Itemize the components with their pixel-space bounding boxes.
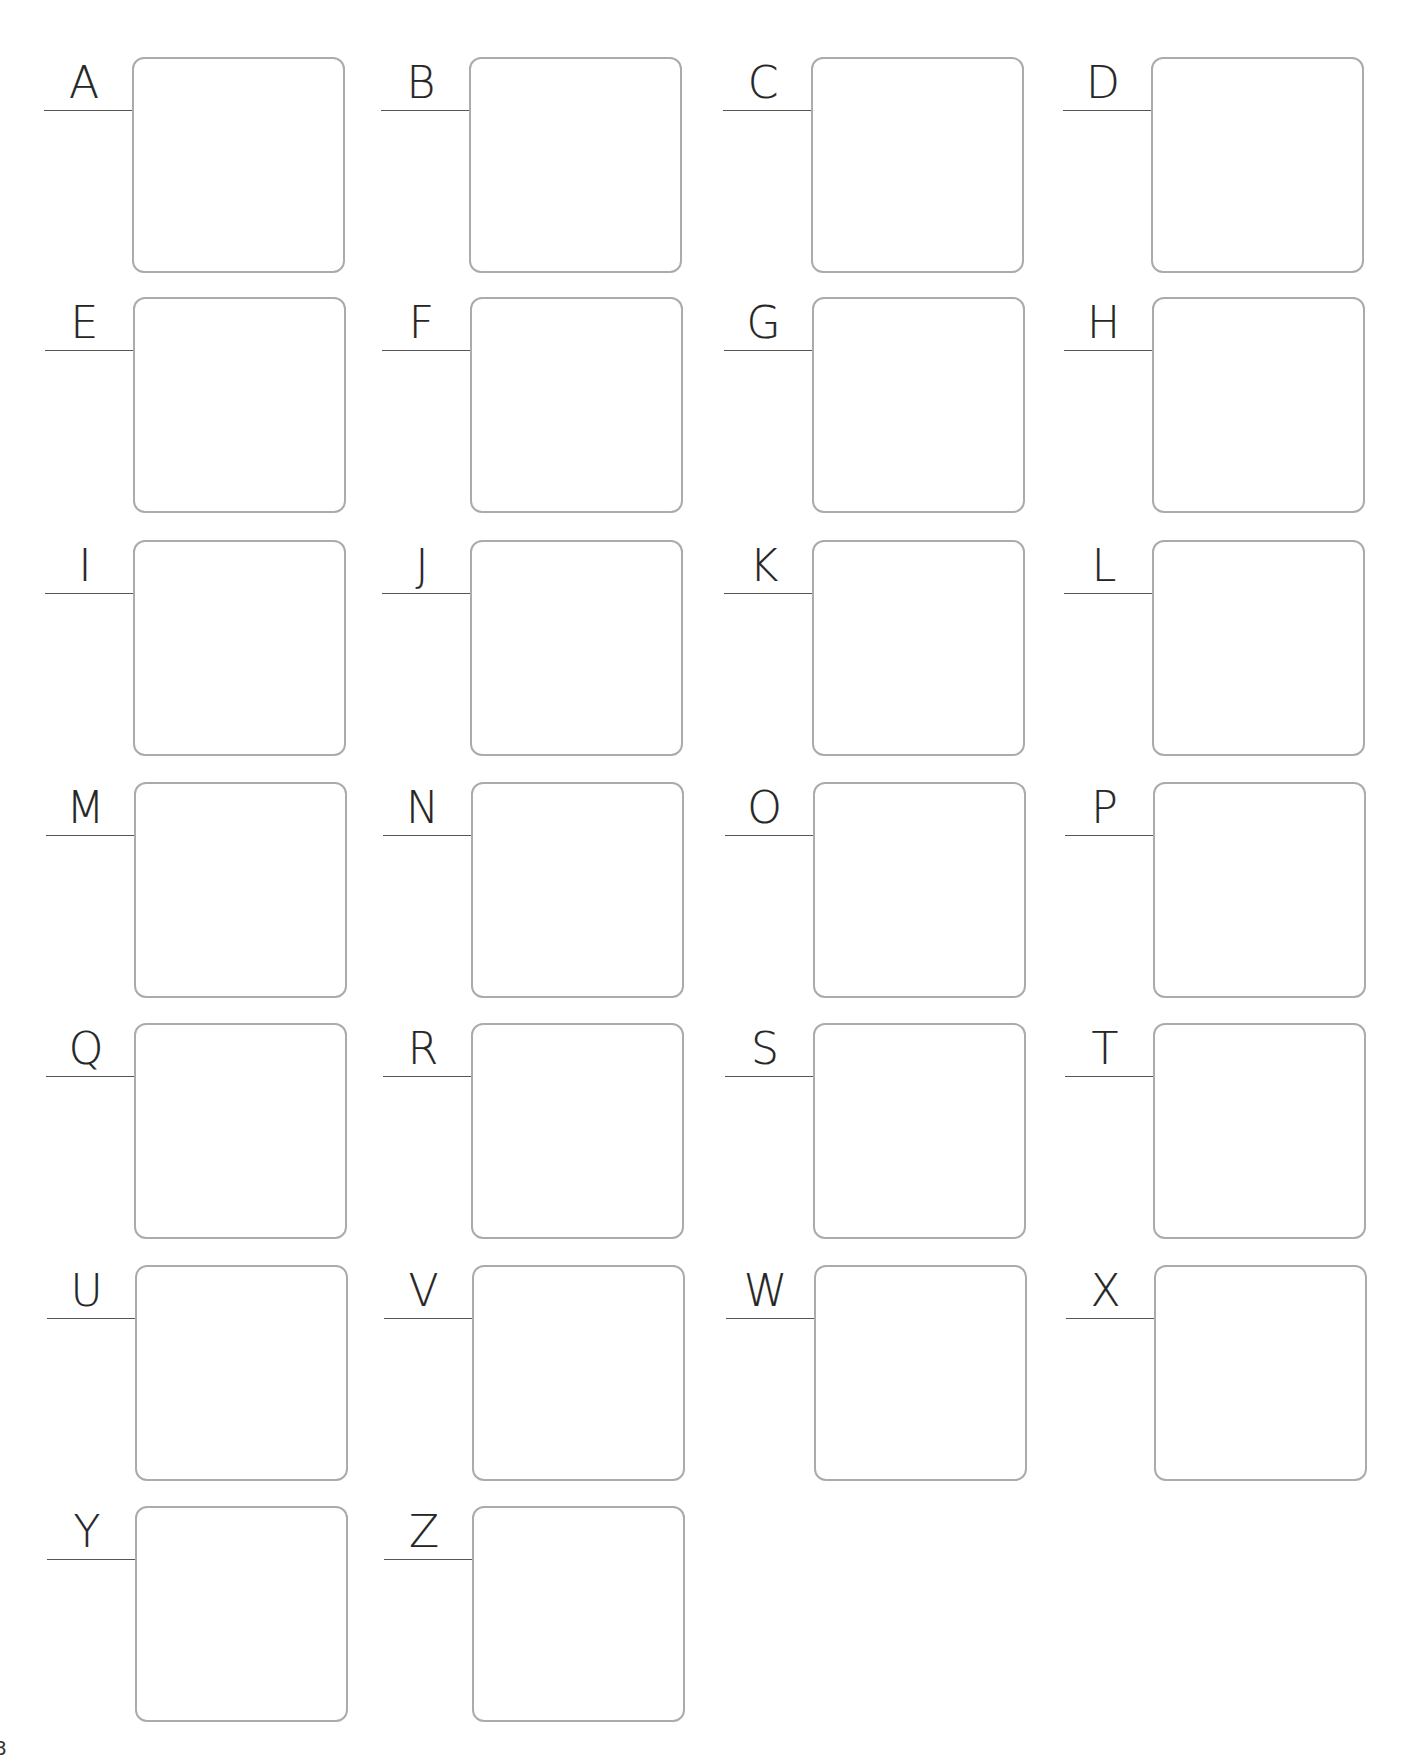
letter-cell-v: V: [384, 1265, 704, 1485]
letter-cell-s: S: [725, 1023, 1045, 1243]
answer-box-j[interactable]: [470, 540, 683, 756]
letter-cell-t: T: [1065, 1023, 1385, 1243]
letter-label-q: Q: [46, 1027, 126, 1071]
answer-box-d[interactable]: [1151, 57, 1364, 273]
label-underline: [1066, 1318, 1162, 1319]
letter-cell-m: M: [46, 782, 366, 1002]
label-underline: [1064, 350, 1160, 351]
label-underline: [382, 350, 478, 351]
letter-label-l: L: [1064, 544, 1144, 588]
label-underline: [383, 835, 479, 836]
letter-label-d: D: [1063, 61, 1143, 105]
letter-label-i: I: [45, 544, 125, 588]
answer-box-o[interactable]: [813, 782, 1026, 998]
letter-cell-e: E: [45, 297, 365, 517]
label-underline: [724, 593, 820, 594]
letter-cell-g: G: [724, 297, 1044, 517]
label-underline: [383, 1076, 479, 1077]
letter-cell-r: R: [383, 1023, 703, 1243]
letter-label-g: G: [724, 301, 804, 345]
letter-cell-j: J: [382, 540, 702, 760]
letter-label-a: A: [44, 61, 124, 105]
label-underline: [45, 350, 141, 351]
label-underline: [1065, 835, 1161, 836]
letter-label-f: F: [382, 301, 462, 345]
answer-box-a[interactable]: [132, 57, 345, 273]
letter-label-n: N: [383, 786, 463, 830]
letter-label-k: K: [724, 544, 804, 588]
letter-label-r: R: [383, 1027, 463, 1071]
letter-label-w: W: [726, 1269, 806, 1313]
label-underline: [384, 1318, 480, 1319]
page-number: 8: [0, 1736, 7, 1759]
label-underline: [46, 1076, 142, 1077]
label-underline: [726, 1318, 822, 1319]
letter-cell-p: P: [1065, 782, 1385, 1002]
letter-cell-k: K: [724, 540, 1044, 760]
answer-box-m[interactable]: [134, 782, 347, 998]
answer-box-s[interactable]: [813, 1023, 1026, 1239]
letter-cell-y: Y: [47, 1506, 367, 1726]
label-underline: [1063, 110, 1159, 111]
answer-box-b[interactable]: [469, 57, 682, 273]
label-underline: [45, 593, 141, 594]
answer-box-c[interactable]: [811, 57, 1024, 273]
answer-box-e[interactable]: [133, 297, 346, 513]
answer-box-u[interactable]: [135, 1265, 348, 1481]
letter-label-m: M: [46, 786, 126, 830]
label-underline: [382, 593, 478, 594]
letter-label-o: O: [725, 786, 805, 830]
letter-cell-w: W: [726, 1265, 1046, 1485]
letter-label-u: U: [47, 1269, 127, 1313]
answer-box-l[interactable]: [1152, 540, 1365, 756]
letter-label-j: J: [382, 544, 462, 588]
answer-box-g[interactable]: [812, 297, 1025, 513]
letter-label-h: H: [1064, 301, 1144, 345]
answer-box-h[interactable]: [1152, 297, 1365, 513]
label-underline: [724, 350, 820, 351]
letter-label-x: X: [1066, 1269, 1146, 1313]
answer-box-v[interactable]: [472, 1265, 685, 1481]
letter-label-z: Z: [384, 1510, 464, 1554]
letter-cell-d: D: [1063, 57, 1383, 277]
answer-box-t[interactable]: [1153, 1023, 1366, 1239]
letter-cell-b: B: [381, 57, 701, 277]
answer-box-r[interactable]: [471, 1023, 684, 1239]
label-underline: [725, 835, 821, 836]
answer-box-w[interactable]: [814, 1265, 1027, 1481]
answer-box-z[interactable]: [472, 1506, 685, 1722]
label-underline: [46, 835, 142, 836]
label-underline: [384, 1559, 480, 1560]
letter-cell-z: Z: [384, 1506, 704, 1726]
label-underline: [47, 1559, 143, 1560]
label-underline: [47, 1318, 143, 1319]
answer-box-f[interactable]: [470, 297, 683, 513]
label-underline: [723, 110, 819, 111]
letter-cell-x: X: [1066, 1265, 1386, 1485]
letter-cell-l: L: [1064, 540, 1384, 760]
letter-label-c: C: [723, 61, 803, 105]
letter-cell-u: U: [47, 1265, 367, 1485]
letter-label-s: S: [725, 1027, 805, 1071]
letter-label-t: T: [1065, 1027, 1145, 1071]
answer-box-k[interactable]: [812, 540, 1025, 756]
label-underline: [1065, 1076, 1161, 1077]
label-underline: [1064, 593, 1160, 594]
answer-box-p[interactable]: [1153, 782, 1366, 998]
answer-box-y[interactable]: [135, 1506, 348, 1722]
letter-label-p: P: [1065, 786, 1145, 830]
letter-label-v: V: [384, 1269, 464, 1313]
answer-box-x[interactable]: [1154, 1265, 1367, 1481]
letter-label-e: E: [45, 301, 125, 345]
letter-label-y: Y: [47, 1510, 127, 1554]
letter-label-b: B: [381, 61, 461, 105]
answer-box-n[interactable]: [471, 782, 684, 998]
letter-cell-n: N: [383, 782, 703, 1002]
letter-cell-c: C: [723, 57, 1043, 277]
label-underline: [44, 110, 140, 111]
answer-box-q[interactable]: [134, 1023, 347, 1239]
letter-cell-a: A: [44, 57, 364, 277]
answer-box-i[interactable]: [133, 540, 346, 756]
letter-cell-o: O: [725, 782, 1045, 1002]
label-underline: [725, 1076, 821, 1077]
